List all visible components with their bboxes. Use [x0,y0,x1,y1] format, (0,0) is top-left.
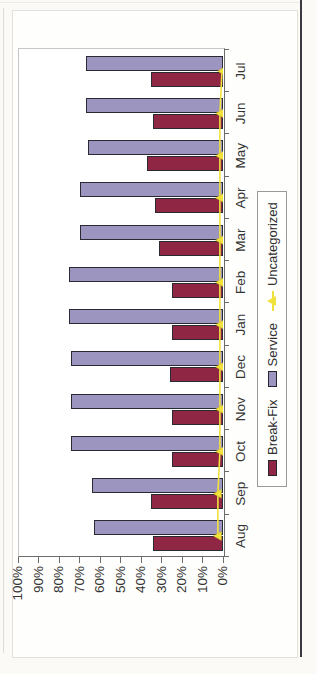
x-axis-category-label: Oct [233,430,249,472]
legend-label: Uncategorized [265,202,280,286]
x-axis-category-label: May [233,135,249,177]
scan-page-edge-line [300,0,302,657]
x-axis-tick [224,303,229,304]
y-axis-tick [120,557,121,563]
y-axis-tick-label: 90% [31,566,47,612]
x-axis-tick [224,176,229,177]
x-axis-tick [224,345,229,346]
y-axis-tick [161,557,162,563]
y-axis-tick [59,557,60,563]
legend-item-service: Service [265,323,280,387]
y-axis-tick [223,557,224,563]
x-axis-category-label: Jul [233,50,249,92]
legend-marker-triangle-icon [267,296,276,306]
y-axis-tick-label: 70% [72,566,88,612]
x-axis-tick [224,429,229,430]
x-axis-tick [224,556,229,557]
x-axis-category-label: Feb [233,261,249,303]
x-axis-category-label: Aug [233,515,249,557]
y-axis-tick [79,557,80,563]
y-axis-tick-label: 50% [113,566,129,612]
y-axis-tick-label: 10% [195,566,211,612]
x-axis-category-label: Sep [233,473,249,515]
y-axis-tick-label: 40% [133,566,149,612]
y-axis-tick-label: 0% [215,566,231,612]
y-axis-tick [18,557,19,563]
y-axis-tick-label: 60% [92,566,108,612]
y-axis-tick [141,557,142,563]
x-axis-category-label: Mar [233,219,249,261]
x-axis-category-label: Jun [233,92,249,134]
y-axis-tick-label: 30% [154,566,170,612]
line-series-uncategorized [18,50,223,557]
x-axis-tick [224,387,229,388]
legend-label: Service [265,323,280,366]
y-axis-tick-label: 100% [10,566,26,612]
y-axis-tick-label: 80% [51,566,67,612]
chart-legend: Break-FixServiceUncategorized [257,191,287,487]
legend-item-uncategorized: Uncategorized [265,202,280,311]
legend-swatch-icon [268,460,277,476]
x-axis-category-label: Nov [233,388,249,430]
x-axis-tick [224,91,229,92]
x-axis-tick [224,514,229,515]
legend-swatch-icon [268,371,277,387]
scanned-chart-page: Break-FixServiceUncategorized 0%10%20%30… [0,0,317,674]
y-axis-tick [202,557,203,563]
x-axis-category-label: Apr [233,177,249,219]
x-axis-tick [224,134,229,135]
x-axis-tick [224,218,229,219]
y-axis-tick [100,557,101,563]
x-axis-category-label: Dec [233,346,249,388]
legend-item-break-fix: Break-Fix [265,399,280,476]
x-axis-tick [224,472,229,473]
bar-chart: Break-FixServiceUncategorized 0%10%20%30… [0,0,317,674]
x-axis-category-label: Jan [233,304,249,346]
legend-line-marker-icon [267,291,277,311]
legend-label: Break-Fix [265,399,280,455]
y-axis-tick [38,557,39,563]
y-axis-tick [182,557,183,563]
x-axis-tick [224,260,229,261]
x-axis-tick [224,49,229,50]
y-axis-tick-label: 20% [174,566,190,612]
